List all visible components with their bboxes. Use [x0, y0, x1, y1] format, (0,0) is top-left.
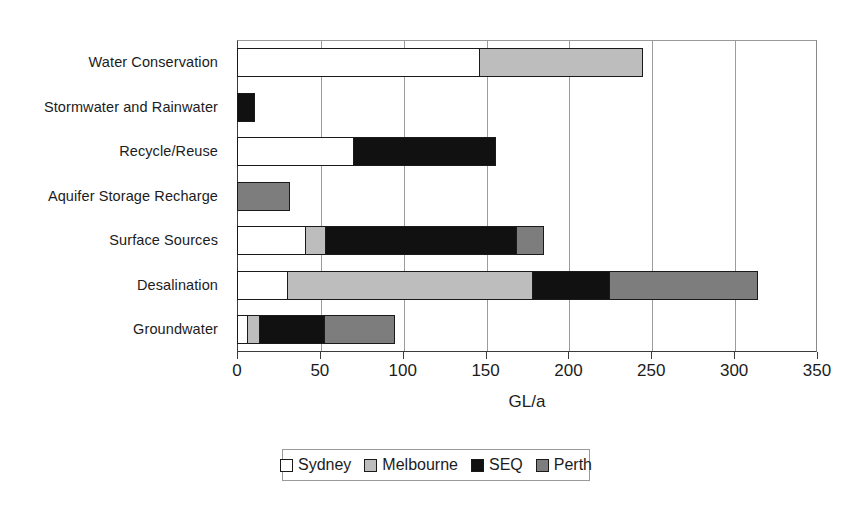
tick-label-0: 0 — [232, 361, 241, 381]
bar-segment-water-conservation-melbourne[interactable] — [479, 48, 643, 77]
bar-segment-recycle-reuse-sydney[interactable] — [237, 137, 355, 166]
legend-label-perth: Perth — [554, 456, 592, 474]
tick-label-100: 100 — [389, 361, 417, 381]
y-label-stormwater-and-rainwater: Stormwater and Rainwater — [44, 85, 218, 130]
bars-layer — [237, 40, 817, 352]
bar-segment-desalination-perth[interactable] — [609, 271, 758, 300]
bar-row-water-conservation — [237, 40, 817, 85]
tick-mark-100 — [403, 352, 404, 359]
x-axis-title: GL/a — [237, 392, 817, 412]
legend-item-seq: SEQ — [471, 456, 523, 474]
bar-row-groundwater — [237, 307, 817, 352]
tick-mark-0 — [237, 352, 238, 359]
bar-segment-surface-sources-seq[interactable] — [325, 226, 517, 255]
bar-segment-desalination-seq[interactable] — [532, 271, 610, 300]
bar-segment-desalination-melbourne[interactable] — [287, 271, 534, 300]
legend-label-seq: SEQ — [489, 456, 523, 474]
bar-stack-aquifer-storage-recharge — [237, 182, 290, 211]
stacked-bar-chart: Water Conservation Stormwater and Rainwa… — [0, 0, 866, 519]
tick-label-50: 50 — [310, 361, 329, 381]
tick-label-350: 350 — [803, 361, 831, 381]
y-label-desalination: Desalination — [137, 263, 218, 308]
bar-row-recycle-reuse — [237, 129, 817, 174]
bar-stack-groundwater — [237, 315, 395, 344]
bar-stack-surface-sources — [237, 226, 544, 255]
chart-legend: Sydney Melbourne SEQ Perth — [282, 449, 590, 481]
bar-segment-surface-sources-perth[interactable] — [516, 226, 544, 255]
legend-item-melbourne: Melbourne — [364, 456, 458, 474]
tick-mark-150 — [486, 352, 487, 359]
y-label-water-conservation: Water Conservation — [89, 40, 218, 85]
legend-swatch-sydney-icon — [280, 459, 293, 472]
tick-mark-50 — [320, 352, 321, 359]
bar-segment-recycle-reuse-seq[interactable] — [353, 137, 496, 166]
y-axis-labels: Water Conservation Stormwater and Rainwa… — [0, 40, 228, 352]
bar-segment-water-conservation-sydney[interactable] — [237, 48, 481, 77]
legend-item-sydney: Sydney — [280, 456, 351, 474]
y-label-aquifer-storage-recharge: Aquifer Storage Recharge — [48, 174, 218, 219]
tick-mark-200 — [568, 352, 569, 359]
bar-stack-recycle-reuse — [237, 137, 496, 166]
tick-mark-350 — [817, 352, 818, 359]
tick-label-250: 250 — [637, 361, 665, 381]
tick-label-300: 300 — [720, 361, 748, 381]
y-label-surface-sources: Surface Sources — [109, 218, 218, 263]
bar-row-desalination — [237, 263, 817, 308]
bar-segment-stormwater-and-rainwater-seq[interactable] — [237, 93, 255, 122]
bar-segment-aquifer-storage-recharge-perth[interactable] — [237, 182, 290, 211]
bar-row-surface-sources — [237, 218, 817, 263]
legend-swatch-seq-icon — [471, 459, 484, 472]
bar-segment-surface-sources-melbourne[interactable] — [305, 226, 327, 255]
tick-mark-250 — [651, 352, 652, 359]
bar-segment-groundwater-seq[interactable] — [259, 315, 325, 344]
bar-stack-stormwater-and-rainwater — [237, 93, 255, 122]
y-label-groundwater: Groundwater — [133, 307, 218, 352]
tick-label-150: 150 — [471, 361, 499, 381]
tick-mark-300 — [734, 352, 735, 359]
bar-segment-surface-sources-sydney[interactable] — [237, 226, 307, 255]
legend-label-sydney: Sydney — [298, 456, 351, 474]
bar-row-stormwater-and-rainwater — [237, 85, 817, 130]
bar-stack-water-conservation — [237, 48, 643, 77]
tick-label-200: 200 — [554, 361, 582, 381]
bar-row-aquifer-storage-recharge — [237, 174, 817, 219]
bar-segment-desalination-sydney[interactable] — [237, 271, 288, 300]
legend-item-perth: Perth — [536, 456, 592, 474]
bar-stack-desalination — [237, 271, 758, 300]
bar-segment-groundwater-perth[interactable] — [324, 315, 395, 344]
legend-swatch-melbourne-icon — [364, 459, 377, 472]
legend-label-melbourne: Melbourne — [382, 456, 458, 474]
y-label-recycle-reuse: Recycle/Reuse — [119, 129, 218, 174]
legend-swatch-perth-icon — [536, 459, 549, 472]
